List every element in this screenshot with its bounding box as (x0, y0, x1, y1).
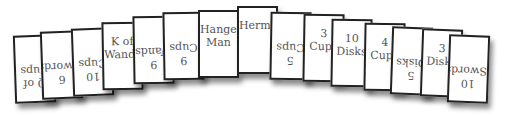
tarot-card[interactable]: 10 Swords (447, 34, 490, 103)
tarot-card[interactable]: Hanged Man (198, 10, 239, 78)
card-label: 10 Swords (449, 63, 487, 90)
card-label: Hanged Man (200, 23, 237, 49)
card-label: 9 Cups (165, 41, 202, 68)
tarot-card-spread: Q of Cups6 Swords10 CupsK of Wands9 Wand… (0, 0, 507, 115)
